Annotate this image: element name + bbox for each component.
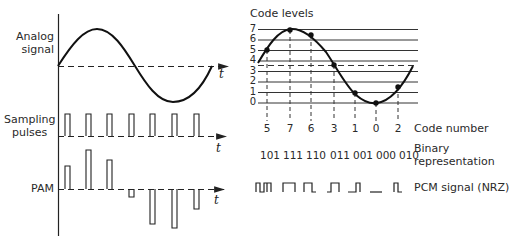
binary-label-line2: representation xyxy=(414,155,495,168)
analog-signal-label: Analog signal xyxy=(16,30,54,56)
level-0: 0 xyxy=(246,96,256,107)
code-number-3: 6 xyxy=(301,122,321,134)
level-4: 4 xyxy=(246,54,256,65)
sampling-t-label: t xyxy=(216,141,221,155)
code-number-4: 3 xyxy=(324,122,344,134)
level-6: 6 xyxy=(246,33,256,44)
binary-label-line1: Binary xyxy=(414,142,495,155)
code-levels-grid xyxy=(258,30,418,104)
sampling-pulses-plot xyxy=(58,114,226,137)
code-number-5: 1 xyxy=(345,122,365,134)
code-levels-title: Code levels xyxy=(250,7,314,20)
sample-points xyxy=(264,27,400,105)
code-number-label: Code number xyxy=(414,122,489,135)
sampling-label-line2: pulses xyxy=(4,126,54,139)
level-2: 2 xyxy=(246,75,256,86)
code-number-2: 7 xyxy=(280,122,300,134)
analog-label-line1: Analog xyxy=(16,30,54,43)
pam-t-label: t xyxy=(214,193,219,207)
analog-t-label: t xyxy=(219,67,224,81)
sample-lines xyxy=(267,30,398,121)
binary-representation-label: Binary representation xyxy=(414,142,495,168)
pcm-nrz-waveforms xyxy=(256,183,402,192)
pam-plot xyxy=(58,150,224,228)
analog-signal-plot xyxy=(58,29,228,102)
sampling-pulses-label: Sampling pulses xyxy=(4,113,54,139)
pam-label: PAM xyxy=(31,182,54,195)
code-number-6: 0 xyxy=(366,122,386,134)
pcm-signal-label: PCM signal (NRZ) xyxy=(414,181,509,194)
analog-label-line2: signal xyxy=(16,43,54,56)
code-number-1: 5 xyxy=(257,122,277,134)
code-number-7: 2 xyxy=(388,122,408,134)
sampling-label-line1: Sampling xyxy=(4,113,54,126)
